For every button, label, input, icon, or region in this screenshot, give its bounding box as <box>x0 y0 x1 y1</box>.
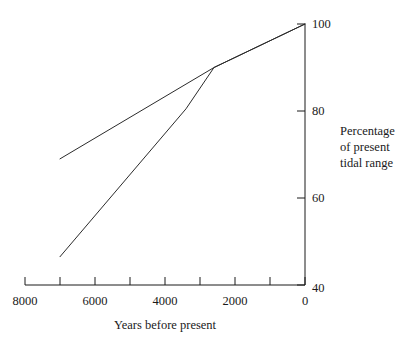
x-tick-label-4000: 4000 <box>153 295 178 308</box>
data-line-lower <box>60 24 305 257</box>
y-axis-ticks <box>297 24 305 285</box>
y-tick-label-40: 40 <box>312 282 325 295</box>
data-line-upper <box>60 24 305 159</box>
x-tick-label-2000: 2000 <box>223 295 248 308</box>
x-tick-label-8000: 8000 <box>13 295 38 308</box>
y-axis-title-line-1: Percentage <box>340 123 395 139</box>
tidal-range-chart: 8000 6000 4000 2000 0 100 80 60 40 Years… <box>0 0 402 349</box>
y-axis-title-line-3: tidal range <box>340 155 395 171</box>
chart-plot-area <box>0 0 402 349</box>
x-axis-ticks <box>25 277 305 285</box>
y-tick-label-80: 80 <box>312 105 325 118</box>
x-tick-label-0: 0 <box>302 295 308 308</box>
y-axis-title: Percentage of present tidal range <box>340 123 395 171</box>
y-axis-title-line-2: of present <box>340 139 395 155</box>
y-tick-label-100: 100 <box>312 18 331 31</box>
y-tick-label-60: 60 <box>312 192 325 205</box>
x-axis-title: Years before present <box>114 318 216 333</box>
x-tick-label-6000: 6000 <box>83 295 108 308</box>
